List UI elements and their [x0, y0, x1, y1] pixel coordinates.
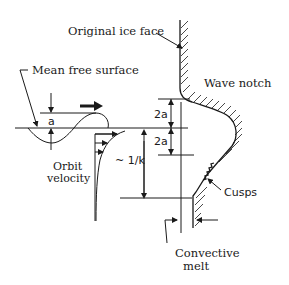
- pointer-original-ice-face: [156, 33, 182, 48]
- label-velocity: velocity: [46, 172, 91, 185]
- velocity-decay-curve: [96, 131, 125, 221]
- label-original-ice-face: Original ice face: [68, 24, 164, 38]
- label-upper-2a: 2a: [154, 108, 168, 121]
- label-amplitude: a: [48, 115, 55, 128]
- label-melt: melt: [183, 259, 209, 273]
- label-wave-notch: Wave notch: [204, 76, 272, 90]
- pointer-cusps: [208, 179, 221, 190]
- lower-2a-arrow-top-icon: [168, 128, 174, 134]
- label-mean-free-surface: Mean free surface: [32, 63, 139, 77]
- label-decay-depth: ~ 1/k: [115, 154, 145, 167]
- upper-2a-arrow-top-icon: [168, 99, 174, 105]
- wave-notch-diagram: Original ice face Mean free surface a Or…: [0, 0, 289, 285]
- pointer-mean-free-surface: [20, 70, 37, 126]
- label-cusps: Cusps: [224, 186, 257, 199]
- convective-melt-arrow-left: [165, 220, 177, 243]
- lower-2a-arrow-bottom-icon: [168, 149, 174, 155]
- label-convective: Convective: [175, 246, 240, 260]
- label-lower-2a: 2a: [154, 135, 168, 148]
- upper-2a-arrow-bottom-icon: [168, 122, 174, 128]
- wave-direction-arrow-icon: [94, 101, 103, 111]
- decay-depth-arrow-top-icon: [141, 129, 147, 135]
